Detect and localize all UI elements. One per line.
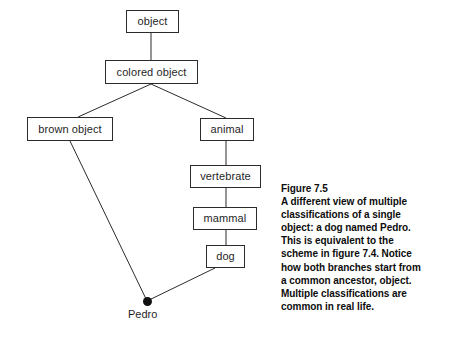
node-animal[interactable]: animal: [200, 118, 254, 141]
node-dog[interactable]: dog: [206, 245, 245, 268]
node-label-object: object: [138, 16, 168, 27]
caption-line: classifications of a single: [281, 208, 453, 221]
caption-line: how both branches start from: [281, 261, 453, 274]
node-label-mammal: mammal: [204, 213, 247, 224]
edge-colored-object-to-brown: [78, 84, 151, 117]
caption-line: a common ancestor, object.: [281, 274, 453, 287]
node-colored-object[interactable]: colored object: [105, 60, 198, 84]
edge-colored-object-to-animal: [151, 84, 226, 118]
node-label-vertebrate: vertebrate: [200, 171, 251, 182]
node-vertebrate[interactable]: vertebrate: [190, 165, 261, 188]
edge-dog-to-pedro: [147, 268, 215, 301]
node-label-animal: animal: [210, 124, 243, 135]
caption-line: scheme in figure 7.4. Notice: [281, 247, 453, 260]
caption-line: A different view of multiple: [281, 195, 453, 208]
figure-caption: Figure 7.5A different view of multiplecl…: [281, 182, 453, 313]
node-mammal[interactable]: mammal: [193, 207, 257, 230]
caption-figure-number: Figure 7.5: [281, 182, 453, 195]
node-brown-object[interactable]: brown object: [27, 117, 113, 141]
node-label-colored-object: colored object: [117, 67, 187, 78]
caption-line: common in real life.: [281, 300, 453, 313]
instance-label-pedro: Pedro: [128, 309, 157, 320]
node-label-dog: dog: [216, 251, 235, 262]
caption-line: object: a dog named Pedro.: [281, 221, 453, 234]
node-object[interactable]: object: [126, 10, 179, 33]
edge-brown-object-to-pedro: [70, 141, 147, 301]
instance-dot-pedro[interactable]: [143, 297, 152, 306]
caption-line: This is equivalent to the: [281, 234, 453, 247]
caption-line: Multiple classifications are: [281, 287, 453, 300]
figure-7-5: objectcolored objectbrown objectanimalve…: [0, 0, 457, 338]
node-label-brown-object: brown object: [38, 124, 102, 135]
